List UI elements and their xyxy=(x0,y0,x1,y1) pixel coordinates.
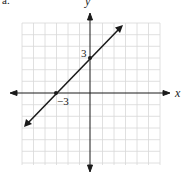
grid xyxy=(22,23,160,165)
coordinate-plane xyxy=(0,0,184,173)
y-intercept-label: 3 xyxy=(81,48,87,59)
plotted-line xyxy=(24,25,123,127)
x-axis-label: x xyxy=(175,87,180,99)
problem-label: a. xyxy=(2,0,10,6)
y-axis-label: y xyxy=(85,0,90,7)
x-intercept-label: −3 xyxy=(57,96,69,107)
point-y-intercept xyxy=(88,56,92,60)
